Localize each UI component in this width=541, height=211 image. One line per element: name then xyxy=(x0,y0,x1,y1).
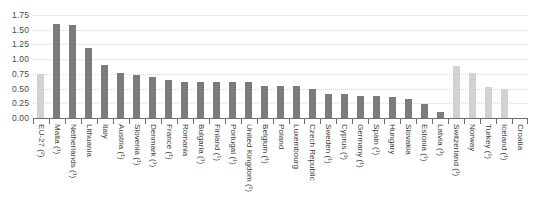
bar-slot xyxy=(145,15,161,118)
bar[interactable] xyxy=(405,99,412,118)
y-axis-tick-label: 0.00 xyxy=(12,114,29,123)
bar-slot xyxy=(304,15,320,118)
x-axis-label-cell: Poland xyxy=(273,124,289,209)
x-axis-label-cell: Austria (¹) xyxy=(113,124,129,209)
bar[interactable] xyxy=(53,24,60,118)
x-axis-category-label: Slovenia (¹) xyxy=(133,124,141,166)
x-axis-label-cell: Netherlands (¹) xyxy=(65,124,81,209)
plot-area xyxy=(33,15,528,118)
bar[interactable] xyxy=(421,104,428,118)
bar[interactable] xyxy=(117,73,124,118)
bar[interactable] xyxy=(293,86,300,118)
x-axis-label-cell: Bulgaria (¹) xyxy=(193,124,209,209)
bar-slot xyxy=(352,15,368,118)
x-axis-category-label: Romania xyxy=(181,124,189,156)
bar[interactable] xyxy=(181,82,188,118)
x-axis-category-label: Norway xyxy=(468,124,476,151)
bar-slot xyxy=(448,15,464,118)
x-axis-label-cell: Romania xyxy=(177,124,193,209)
x-axis-label-cell: Latvia (¹) xyxy=(432,124,448,209)
y-axis-tick-label: 1.25 xyxy=(12,40,29,49)
x-axis-label-cell: Denmark (¹) xyxy=(145,124,161,209)
bar[interactable] xyxy=(69,25,76,118)
bar[interactable] xyxy=(261,86,268,118)
bar[interactable] xyxy=(501,89,508,118)
x-axis-category-label: Malta (¹) xyxy=(53,124,61,154)
x-axis-category-label: France (¹) xyxy=(165,124,173,160)
x-axis-label-cell: Italy xyxy=(97,124,113,209)
bar[interactable] xyxy=(149,77,156,118)
bar[interactable] xyxy=(309,89,316,118)
x-axis-category-labels: EU-27 (²)Malta (¹)Netherlands (¹)Lithuan… xyxy=(33,124,528,209)
x-axis-label-cell: Belgium (¹) xyxy=(257,124,273,209)
bar[interactable] xyxy=(37,74,44,118)
y-axis-tick-label: 0.25 xyxy=(12,99,29,108)
bar-slot xyxy=(225,15,241,118)
bar[interactable] xyxy=(165,80,172,118)
x-axis-label-cell: Estonia (¹) xyxy=(416,124,432,209)
x-axis-category-label: Portugal (¹) xyxy=(229,124,237,165)
bar[interactable] xyxy=(389,97,396,118)
x-axis-category-label: Lithuania xyxy=(85,124,93,157)
x-axis-label-cell: Lithuania xyxy=(81,124,97,209)
bar-series xyxy=(33,15,528,118)
bar[interactable] xyxy=(341,94,348,118)
x-axis-category-label: Italy xyxy=(101,124,109,139)
x-axis-category-label: Denmark (¹) xyxy=(149,124,157,167)
bar[interactable] xyxy=(229,82,236,118)
x-axis-category-label: EU-27 (²) xyxy=(37,124,45,157)
bar[interactable] xyxy=(469,73,476,118)
bar[interactable] xyxy=(357,96,364,118)
bar[interactable] xyxy=(197,82,204,118)
bar-slot xyxy=(512,15,528,118)
x-axis-category-label: Sweden (¹) xyxy=(324,124,332,164)
bar-slot xyxy=(161,15,177,118)
x-axis-category-label: Bulgaria (¹) xyxy=(197,124,205,164)
bar-slot xyxy=(432,15,448,118)
bar-slot xyxy=(496,15,512,118)
x-axis-category-label: Czech Republic xyxy=(308,124,316,181)
x-axis-category-label: United Kingdom (¹) xyxy=(245,124,253,192)
bar[interactable] xyxy=(373,96,380,118)
x-axis-category-label: Croatia xyxy=(516,124,524,150)
bar-slot xyxy=(257,15,273,118)
bar[interactable] xyxy=(101,65,108,118)
x-axis-label-cell: Iceland (¹) xyxy=(496,124,512,209)
x-axis-label-cell: Slovakia xyxy=(400,124,416,209)
x-axis-label-cell: Luxembourg xyxy=(289,124,305,209)
y-axis-tick-label: 0.75 xyxy=(12,70,29,79)
y-axis-tick-labels: 1.751.501.251.000.750.500.250.00 xyxy=(0,15,29,118)
x-axis-label-cell: Cyprus (¹) xyxy=(336,124,352,209)
bar[interactable] xyxy=(277,86,284,118)
x-axis-label-cell: Portugal (¹) xyxy=(225,124,241,209)
bar-slot xyxy=(113,15,129,118)
x-axis-category-label: Belgium (¹) xyxy=(261,124,269,164)
x-axis-label-cell: Spain (¹) xyxy=(368,124,384,209)
bar-slot xyxy=(336,15,352,118)
x-axis-category-label: Switzerland (¹) xyxy=(452,124,460,176)
x-axis-label-cell: France (¹) xyxy=(161,124,177,209)
x-axis-category-label: Poland xyxy=(277,124,285,149)
y-axis-tick-label: 1.00 xyxy=(12,55,29,64)
bar-slot xyxy=(384,15,400,118)
bar-slot xyxy=(241,15,257,118)
bar[interactable] xyxy=(85,48,92,118)
bar[interactable] xyxy=(133,75,140,118)
x-axis-label-cell: Slovenia (¹) xyxy=(129,124,145,209)
x-axis-category-label: Finland (¹) xyxy=(213,124,221,161)
x-axis-category-label: Slovakia xyxy=(404,124,412,155)
bar-slot xyxy=(33,15,49,118)
bar[interactable] xyxy=(245,82,252,118)
x-axis-label-cell: Norway xyxy=(464,124,480,209)
bar-slot xyxy=(480,15,496,118)
x-axis-label-cell: Finland (¹) xyxy=(209,124,225,209)
bar[interactable] xyxy=(325,94,332,118)
y-axis-tick-label: 0.50 xyxy=(12,85,29,94)
bar[interactable] xyxy=(453,66,460,118)
x-axis-label-cell: Croatia xyxy=(512,124,528,209)
bar[interactable] xyxy=(485,87,492,118)
y-axis-tick-label: 1.75 xyxy=(12,11,29,20)
x-axis-category-label: Turkey (¹) xyxy=(484,124,492,159)
bar[interactable] xyxy=(213,82,220,118)
bar-slot xyxy=(368,15,384,118)
